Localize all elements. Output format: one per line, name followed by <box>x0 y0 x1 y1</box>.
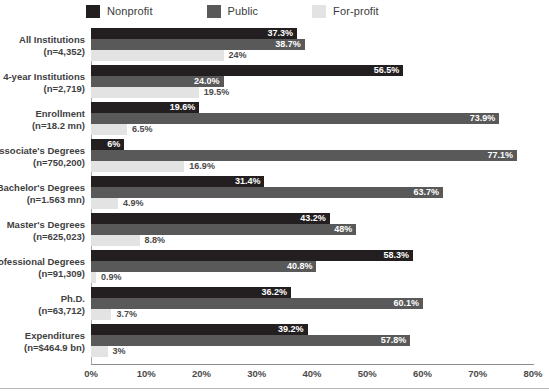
bar-track: 31.4% <box>91 176 533 187</box>
x-axis-tick: 60% <box>413 368 432 379</box>
bar-public[interactable] <box>91 39 305 50</box>
bar-value-label: 3% <box>108 346 126 357</box>
category-name: Master's Degrees <box>0 219 85 231</box>
bar-track: 58.3% <box>91 250 533 261</box>
legend-label: Nonprofit <box>107 5 153 17</box>
bar-track: 39.2% <box>91 324 533 335</box>
bar-track: 43.2% <box>91 213 533 224</box>
legend-swatch-icon <box>207 5 221 18</box>
legend-label: Public <box>228 5 259 17</box>
category-label: Ph.D.(n=63,712) <box>0 293 85 316</box>
bar-track: 8.8% <box>91 235 533 246</box>
category-sample-size: (n=4,352) <box>0 46 85 58</box>
category-label: Enrollment(n=18.2 mn) <box>0 108 85 131</box>
category-name: Expenditures <box>0 330 85 342</box>
category-sample-size: (n=1.563 mn) <box>0 194 85 206</box>
bar-public[interactable] <box>91 298 423 309</box>
bar-value-label: 73.9% <box>470 113 500 124</box>
bar-public[interactable] <box>91 187 443 198</box>
legend-label: For-profit <box>333 5 379 17</box>
legend-item-for-profit[interactable]: For-profit <box>312 5 379 18</box>
bar-track: 24% <box>91 50 533 61</box>
footer-divider <box>0 388 549 389</box>
category-sample-size: (n=63,712) <box>0 305 85 317</box>
bar-for-profit[interactable] <box>91 124 127 135</box>
bar-track: 3% <box>91 346 533 357</box>
category-bars: 58.3%40.8%0.9% <box>91 250 533 284</box>
x-axis-tick: 50% <box>358 368 377 379</box>
bar-nonprofit[interactable] <box>91 324 308 335</box>
bar-value-label: 16.9% <box>184 161 215 172</box>
bar-value-label: 24% <box>224 50 247 61</box>
category-sample-size: (n=$464.9 bn) <box>0 342 85 354</box>
chart-category-group: All Institutions(n=4,352)37.3%38.7%24% <box>0 28 549 65</box>
bar-value-label: 3.7% <box>111 309 137 320</box>
bar-public[interactable] <box>91 224 356 235</box>
bar-public[interactable] <box>91 150 517 161</box>
bar-for-profit[interactable] <box>91 346 108 357</box>
x-axis-tick: 0% <box>84 368 98 379</box>
chart-category-group: Expenditures(n=$464.9 bn)39.2%57.8%3% <box>0 324 549 361</box>
category-bars: 36.2%60.1%3.7% <box>91 287 533 321</box>
x-axis-tick: 30% <box>247 368 266 379</box>
bar-value-label: 57.8% <box>381 335 411 346</box>
legend-item-nonprofit[interactable]: Nonprofit <box>86 5 153 18</box>
bar-track: 37.3% <box>91 28 533 39</box>
chart-category-group: Enrollment(n=18.2 mn)19.6%73.9%6.5% <box>0 102 549 139</box>
bar-value-label: 31.4% <box>235 176 265 187</box>
x-axis-line <box>91 364 534 365</box>
bar-public[interactable] <box>91 261 316 272</box>
bar-track: 63.7% <box>91 187 533 198</box>
bar-nonprofit[interactable] <box>91 250 413 261</box>
category-bars: 6%77.1%16.9% <box>91 139 533 173</box>
category-sample-size: (n=18.2 mn) <box>0 120 85 132</box>
category-label: All Institutions(n=4,352) <box>0 34 85 57</box>
bar-value-label: 63.7% <box>413 187 443 198</box>
bar-track: 6% <box>91 139 533 150</box>
bar-public[interactable] <box>91 335 410 346</box>
bar-for-profit[interactable] <box>91 198 118 209</box>
bar-value-label: 4.9% <box>118 198 144 209</box>
bar-track: 40.8% <box>91 261 533 272</box>
bar-value-label: 0.9% <box>96 272 122 283</box>
chart-category-group: Ph.D.(n=63,712)36.2%60.1%3.7% <box>0 287 549 324</box>
bar-nonprofit[interactable] <box>91 65 403 76</box>
bar-value-label: 38.7% <box>275 39 305 50</box>
bar-value-label: 19.5% <box>199 87 230 98</box>
bar-track: 19.5% <box>91 87 533 98</box>
category-label: Professional Degrees(n=91,309) <box>0 256 85 279</box>
category-label: Expenditures(n=$464.9 bn) <box>0 330 85 353</box>
category-bars: 43.2%48%8.8% <box>91 213 533 247</box>
chart-category-group: 4-year Institutions(n=2,719)56.5%24.0%19… <box>0 65 549 102</box>
category-sample-size: (n=91,309) <box>0 268 85 280</box>
bar-track: 4.9% <box>91 198 533 209</box>
legend-item-public[interactable]: Public <box>207 5 259 18</box>
bar-track: 24.0% <box>91 76 533 87</box>
bar-for-profit[interactable] <box>91 50 224 61</box>
bar-for-profit[interactable] <box>91 87 199 98</box>
x-axis-tick: 10% <box>137 368 156 379</box>
bar-value-label: 8.8% <box>140 235 166 246</box>
bar-value-label: 36.2% <box>261 287 291 298</box>
bar-public[interactable] <box>91 113 499 124</box>
category-name: All Institutions <box>0 34 85 46</box>
category-name: Ph.D. <box>0 293 85 305</box>
bar-track: 6.5% <box>91 124 533 135</box>
bar-value-label: 77.1% <box>487 150 517 161</box>
bar-value-label: 37.3% <box>268 28 298 39</box>
bar-nonprofit[interactable] <box>91 28 297 39</box>
bar-for-profit[interactable] <box>91 309 111 320</box>
category-label: Associate's Degrees(n=750,200) <box>0 145 85 168</box>
bar-nonprofit[interactable] <box>91 213 330 224</box>
bar-track: 0.9% <box>91 272 533 283</box>
category-bars: 19.6%73.9%6.5% <box>91 102 533 136</box>
bar-track: 77.1% <box>91 150 533 161</box>
category-label: Bachelor's Degrees(n=1.563 mn) <box>0 182 85 205</box>
category-bars: 56.5%24.0%19.5% <box>91 65 533 99</box>
bar-value-label: 24.0% <box>194 76 224 87</box>
category-label: Master's Degrees(n=625,023) <box>0 219 85 242</box>
bar-value-label: 48% <box>334 224 356 235</box>
legend-swatch-icon <box>312 5 326 18</box>
bar-for-profit[interactable] <box>91 235 140 246</box>
bar-for-profit[interactable] <box>91 161 184 172</box>
